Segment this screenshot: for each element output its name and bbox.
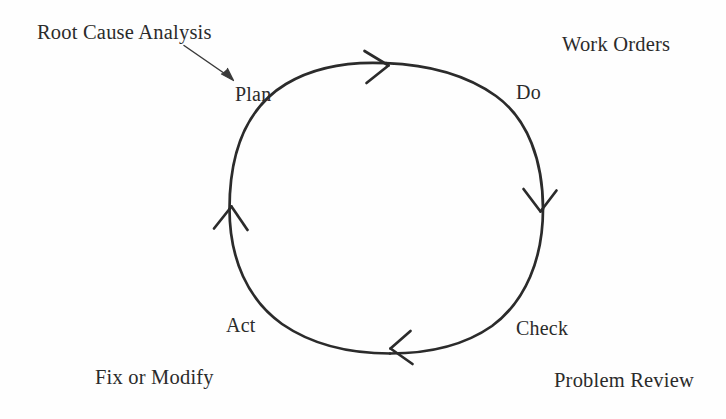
pdca-cycle-graphic <box>0 0 726 419</box>
annotation-root-cause-analysis: Root Cause Analysis <box>37 22 212 43</box>
arrowhead-top-icon <box>365 51 389 83</box>
annotation-fix-or-modify: Fix or Modify <box>95 367 214 388</box>
rca-pointer-arrow <box>184 46 234 81</box>
phase-label-plan: Plan <box>235 84 271 104</box>
phase-label-check: Check <box>516 318 568 338</box>
annotation-work-orders: Work Orders <box>562 34 670 55</box>
diagram-canvas: Plan Do Check Act Root Cause Analysis Wo… <box>0 0 726 419</box>
phase-label-do: Do <box>516 82 541 102</box>
annotation-problem-review: Problem Review <box>554 370 694 391</box>
cycle-ring <box>230 63 544 354</box>
arrowhead-right-icon <box>524 189 557 212</box>
phase-label-act: Act <box>226 315 255 335</box>
arrowhead-bottom-icon <box>391 331 413 364</box>
